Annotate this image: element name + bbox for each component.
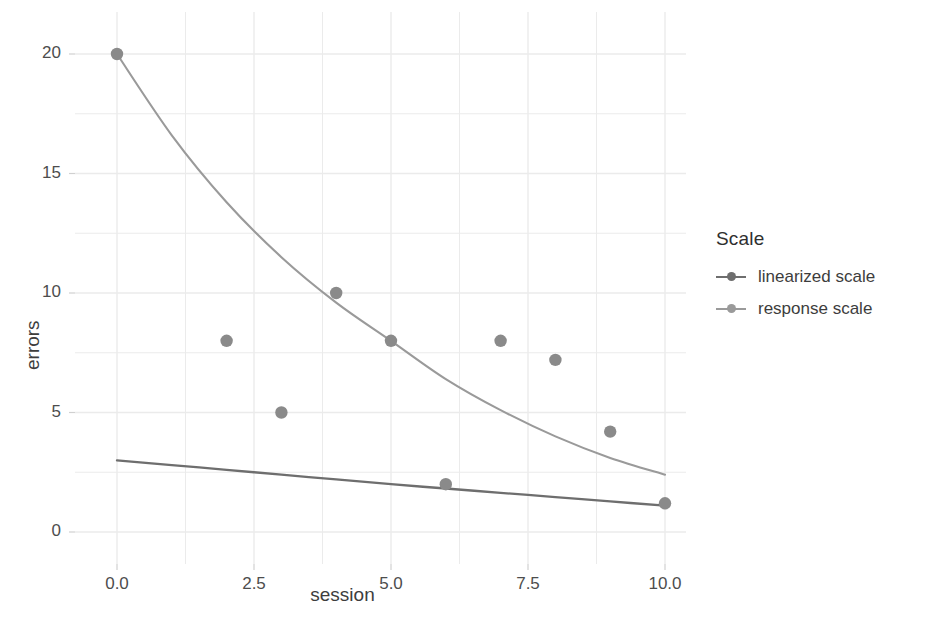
data-point	[494, 335, 506, 347]
y-tick-label: 5	[1, 402, 61, 422]
data-point	[549, 354, 561, 366]
data-point	[659, 497, 671, 509]
data-point	[440, 478, 452, 490]
legend: Scale linearized scale response scale	[716, 228, 926, 328]
grid-minor-lines	[75, 12, 686, 564]
data-point	[330, 287, 342, 299]
legend-item-linearized-scale[interactable]: linearized scale	[716, 264, 926, 290]
y-axis-title: errors	[22, 320, 44, 370]
data-point	[385, 335, 397, 347]
y-tick-label: 10	[1, 282, 61, 302]
legend-key-icon	[716, 299, 746, 319]
legend-item-label: linearized scale	[758, 267, 875, 287]
y-tick-label: 15	[1, 163, 61, 183]
legend-item-label: response scale	[758, 299, 872, 319]
y-tick-label: 20	[1, 43, 61, 63]
x-axis-title: session	[0, 584, 685, 606]
axis-tick-marks	[69, 54, 665, 570]
legend-key-icon	[716, 267, 746, 287]
y-tick-label: 0	[1, 521, 61, 541]
data-point	[604, 425, 616, 437]
legend-title: Scale	[716, 228, 926, 250]
data-point	[111, 48, 123, 60]
data-point	[220, 335, 232, 347]
data-point	[275, 406, 287, 418]
legend-item-response-scale[interactable]: response scale	[716, 296, 926, 322]
chart-container: 05101520 0.02.55.07.510.0 errors session…	[0, 0, 937, 637]
grid-major-lines	[75, 12, 686, 564]
